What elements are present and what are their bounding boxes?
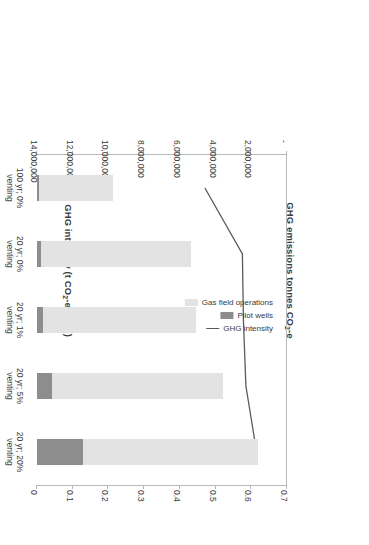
- secondary-axis-tick: [72, 485, 73, 489]
- primary-axis-tick-label: -: [279, 140, 289, 143]
- secondary-axis-tick: [36, 485, 37, 489]
- bar-segment-gas-field-operations[interactable]: [39, 175, 113, 201]
- primary-axis-tick-label: 2,000,000: [243, 140, 253, 178]
- legend-item-label: Pilot wells: [237, 311, 273, 320]
- secondary-axis-tick-label: 0.2: [100, 490, 110, 502]
- legend-item[interactable]: Pilot wells: [185, 309, 273, 322]
- secondary-axis-tick: [215, 485, 216, 489]
- bar-segment-pilot-wells[interactable]: [37, 373, 52, 399]
- legend-item-label: GHG intensity: [223, 324, 273, 333]
- secondary-axis-tick: [107, 485, 108, 489]
- bar-group[interactable]: [37, 241, 287, 267]
- secondary-axis-tick-label: 0.7: [279, 490, 289, 502]
- legend-swatch-icon: [185, 299, 198, 306]
- chart-legend: Gas field operationsPilot wellsGHG inten…: [185, 296, 273, 335]
- secondary-axis-tick: [179, 485, 180, 489]
- secondary-axis-tick-label: 0: [29, 490, 39, 495]
- bar-segment-gas-field-operations[interactable]: [41, 241, 191, 267]
- primary-axis-title-text: GHG emissions tonnes CO: [285, 202, 296, 326]
- secondary-axis-tick-label: 0.4: [172, 490, 182, 502]
- secondary-axis-tick-label: 0.5: [208, 490, 218, 502]
- bar-segment-gas-field-operations[interactable]: [52, 373, 223, 399]
- category-label: 20 yr; 20%venting: [5, 412, 25, 492]
- chart-canvas: GHG emissions tonnes CO2-e GHG intensity…: [0, 0, 369, 545]
- secondary-axis-tick-label: 0.1: [65, 490, 75, 502]
- secondary-axis-tick-label: 0.6: [243, 490, 253, 502]
- legend-swatch-icon: [220, 312, 233, 319]
- legend-item-label: Gas field operations: [202, 298, 273, 307]
- bar-segment-gas-field-operations[interactable]: [43, 307, 196, 333]
- chart-figure: GHG emissions tonnes CO2-e GHG intensity…: [0, 0, 369, 545]
- bar-segment-pilot-wells[interactable]: [37, 439, 83, 465]
- primary-axis-tick-label: 6,000,000: [172, 140, 182, 178]
- bar-segment-gas-field-operations[interactable]: [83, 439, 258, 465]
- legend-item[interactable]: GHG intensity: [185, 322, 273, 335]
- primary-axis-title-suffix: -e: [285, 330, 296, 339]
- primary-axis-tick-label: 4,000,000: [208, 140, 218, 178]
- bar-group[interactable]: [37, 373, 287, 399]
- primary-axis-tick: [286, 151, 287, 155]
- legend-item[interactable]: Gas field operations: [185, 296, 273, 309]
- bar-group[interactable]: [37, 175, 287, 201]
- secondary-axis-tick: [250, 485, 251, 489]
- secondary-axis-tick: [143, 485, 144, 489]
- primary-axis-tick-label: 8,000,000: [136, 140, 146, 178]
- legend-line-icon: [206, 328, 219, 329]
- secondary-axis-tick: [286, 485, 287, 489]
- bar-group[interactable]: [37, 439, 287, 465]
- secondary-axis-tick-label: 0.3: [136, 490, 146, 502]
